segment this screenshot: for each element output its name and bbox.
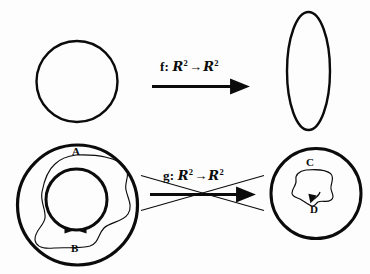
g-function-name: g	[163, 168, 170, 183]
g-domain: R	[178, 168, 189, 183]
f-mapping-label: f: R2→R2	[160, 59, 219, 73]
top-source-circle	[37, 41, 118, 122]
curve-label-d: D	[310, 204, 318, 215]
curve-label-a: A	[72, 146, 80, 157]
f-codomain: R	[203, 59, 214, 74]
disk-boundary	[271, 149, 361, 239]
curve-label-c: C	[306, 157, 314, 168]
top-target-ellipse	[287, 12, 330, 130]
g-colon: :	[170, 168, 175, 183]
bottom-target-disk	[271, 149, 361, 239]
figure-root: f: R2→R2 g: R2→R2 A B C D	[0, 0, 370, 274]
figure-canvas	[0, 0, 370, 274]
g-codomain: R	[208, 168, 219, 183]
f-codomain-exponent: 2	[214, 58, 218, 68]
g-mapping-label: g: R2→R2	[163, 168, 224, 182]
annulus-inner-boundary	[46, 169, 107, 230]
g-maps-to-arrow: →	[193, 168, 208, 183]
curve-label-b: B	[71, 243, 78, 254]
f-domain: R	[173, 59, 184, 74]
loop-curve-c	[292, 170, 333, 207]
f-colon: :	[165, 59, 170, 74]
f-maps-to-arrow: →	[188, 59, 203, 74]
g-codomain-exponent: 2	[219, 167, 223, 177]
